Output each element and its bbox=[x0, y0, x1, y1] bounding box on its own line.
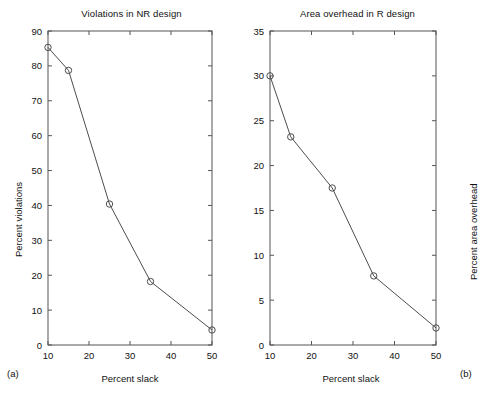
svg-text:10: 10 bbox=[265, 350, 276, 361]
svg-text:10: 10 bbox=[253, 250, 264, 261]
svg-text:60: 60 bbox=[31, 130, 42, 141]
line-chart-a: 10203040500102030405060708090 bbox=[0, 0, 227, 398]
chart-panel-a: Violations in NR design 1020304050010203… bbox=[0, 0, 227, 398]
svg-text:10: 10 bbox=[43, 350, 54, 361]
panel-caption-a: (a) bbox=[7, 368, 19, 379]
svg-text:70: 70 bbox=[31, 95, 42, 106]
svg-text:15: 15 bbox=[253, 205, 264, 216]
svg-text:30: 30 bbox=[31, 235, 42, 246]
svg-text:0: 0 bbox=[259, 340, 264, 351]
svg-text:40: 40 bbox=[31, 200, 42, 211]
x-axis-label-a: Percent slack bbox=[55, 373, 205, 384]
svg-text:50: 50 bbox=[31, 165, 42, 176]
svg-text:20: 20 bbox=[31, 270, 42, 281]
y-axis-label-a: Percent violations bbox=[13, 182, 24, 257]
svg-text:30: 30 bbox=[253, 70, 264, 81]
svg-text:40: 40 bbox=[389, 350, 400, 361]
svg-text:50: 50 bbox=[207, 350, 218, 361]
panel-caption-b: (b) bbox=[460, 368, 472, 379]
svg-text:30: 30 bbox=[348, 350, 359, 361]
svg-text:10: 10 bbox=[31, 305, 42, 316]
svg-text:0: 0 bbox=[37, 340, 42, 351]
svg-text:40: 40 bbox=[166, 350, 177, 361]
chart-panel-b: Area overhead in R design 10203040500510… bbox=[228, 0, 455, 398]
svg-text:20: 20 bbox=[253, 160, 264, 171]
line-chart-b: 102030405005101520253035 bbox=[228, 0, 455, 398]
svg-text:35: 35 bbox=[253, 26, 264, 37]
svg-text:90: 90 bbox=[31, 26, 42, 37]
svg-text:30: 30 bbox=[125, 350, 136, 361]
svg-text:50: 50 bbox=[431, 350, 442, 361]
svg-text:20: 20 bbox=[84, 350, 95, 361]
svg-text:20: 20 bbox=[306, 350, 317, 361]
svg-text:5: 5 bbox=[259, 295, 264, 306]
svg-text:80: 80 bbox=[31, 60, 42, 71]
x-axis-label-b: Percent slack bbox=[276, 373, 426, 384]
y-axis-label-b: Percent area overhead bbox=[468, 183, 479, 280]
svg-text:25: 25 bbox=[253, 115, 264, 126]
